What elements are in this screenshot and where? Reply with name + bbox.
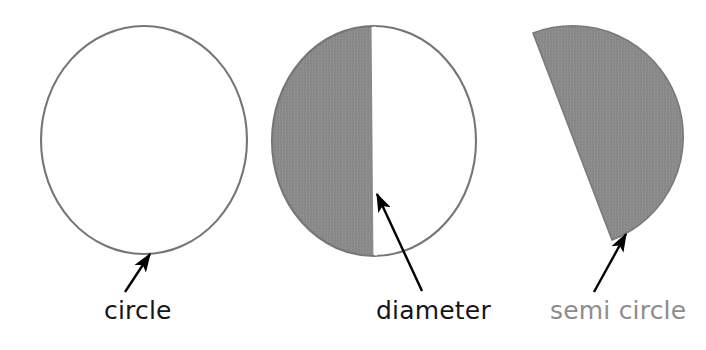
diameter-shaded-half [268, 20, 374, 262]
circle-outline [41, 26, 247, 254]
label-semi-circle: semi circle [550, 298, 686, 323]
semi-circle-annotation-arrow [594, 234, 626, 292]
label-diameter: diameter [376, 298, 491, 323]
label-circle: circle [104, 298, 172, 323]
diameter-annotation-arrow [377, 194, 422, 291]
shape-circle-with-diameter [268, 20, 476, 262]
shape-circle [41, 26, 247, 254]
diameter-line [375, 27, 377, 256]
shape-semi-circle [533, 26, 683, 240]
geometry-figure: circle diameter semi circle [0, 0, 706, 350]
semi-circle-body [533, 26, 683, 240]
circle-annotation-arrow [125, 254, 150, 292]
